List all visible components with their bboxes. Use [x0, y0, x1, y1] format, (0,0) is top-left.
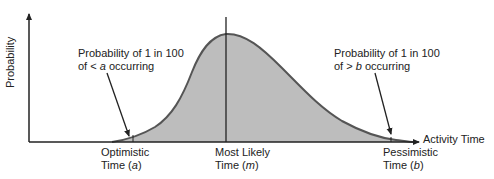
left-annotation: Probability of 1 in 100 of < a occurring	[78, 47, 184, 73]
x-axis-label: Activity Time	[423, 133, 485, 146]
optimistic-time-label: Optimistic Time (a)	[101, 146, 149, 172]
right-annotation-arrow	[375, 73, 391, 134]
left-annotation-line2: of < a occurring	[78, 60, 184, 73]
right-annotation-line2: of > b occurring	[334, 60, 440, 73]
pert-distribution-diagram: Probability Activity Time Probability of…	[0, 0, 494, 179]
pessimistic-time-label: Pessimistic Time (b)	[383, 146, 438, 172]
most-likely-time-label: Most Likely Time (m)	[215, 146, 270, 172]
right-annotation-line1: Probability of 1 in 100	[334, 47, 440, 60]
left-annotation-arrow	[107, 73, 129, 136]
left-annotation-line1: Probability of 1 in 100	[78, 47, 184, 60]
right-annotation: Probability of 1 in 100 of > b occurring	[334, 47, 440, 73]
y-axis-label: Probability	[4, 28, 16, 88]
